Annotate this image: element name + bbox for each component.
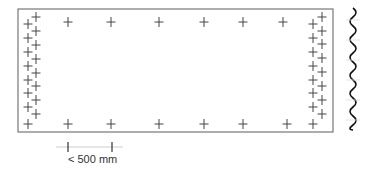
cross-mark-icon xyxy=(318,67,327,77)
cross-mark-icon xyxy=(309,88,318,98)
cross-mark-icon xyxy=(155,119,164,129)
cross-mark-icon xyxy=(24,102,33,112)
cross-mark-icon xyxy=(32,54,41,64)
cross-mark-icon xyxy=(32,81,41,91)
cross-mark-icon xyxy=(318,12,327,22)
cross-mark-icon xyxy=(32,95,41,105)
cross-mark-icon xyxy=(309,47,318,57)
cross-mark-icon xyxy=(24,75,33,85)
fastener-layout-diagram xyxy=(0,0,375,170)
cross-mark-icon xyxy=(24,19,33,29)
cross-mark-icon xyxy=(32,12,41,22)
cross-mark-icon xyxy=(318,39,327,49)
cross-mark-icon xyxy=(24,88,33,98)
cross-mark-icon xyxy=(309,102,318,112)
cross-mark-icon xyxy=(24,47,33,57)
cross-mark-icon xyxy=(318,53,327,63)
cross-mark-icon xyxy=(32,68,41,78)
fastener-crosses xyxy=(24,12,327,129)
cross-mark-icon xyxy=(283,119,292,129)
cross-mark-icon xyxy=(239,17,248,27)
cross-mark-icon xyxy=(200,17,209,27)
scale-bar-label: < 500 mm xyxy=(68,153,117,165)
cross-mark-icon xyxy=(32,26,41,36)
cross-mark-icon xyxy=(107,119,116,129)
cross-mark-icon xyxy=(309,61,318,71)
cross-mark-icon xyxy=(309,75,318,85)
cross-mark-icon xyxy=(64,119,73,129)
cross-mark-icon xyxy=(32,109,41,119)
break-line-path xyxy=(350,8,356,130)
wavy-break-line xyxy=(346,8,360,130)
panel-outline xyxy=(18,9,333,132)
scale-bar xyxy=(56,142,123,152)
cross-mark-icon xyxy=(309,19,318,29)
cross-mark-icon xyxy=(32,40,41,50)
cross-mark-icon xyxy=(200,119,209,129)
cross-mark-icon xyxy=(318,81,327,91)
cross-mark-icon xyxy=(309,33,318,43)
cross-mark-icon xyxy=(309,119,318,129)
cross-mark-icon xyxy=(318,109,327,119)
cross-mark-icon xyxy=(24,33,33,43)
cross-mark-icon xyxy=(279,17,288,27)
cross-mark-icon xyxy=(107,17,116,27)
cross-mark-icon xyxy=(64,17,73,27)
cross-mark-icon xyxy=(24,61,33,71)
cross-mark-icon xyxy=(155,17,164,27)
cross-mark-icon xyxy=(318,26,327,36)
cross-mark-icon xyxy=(24,119,33,129)
cross-mark-icon xyxy=(239,119,248,129)
cross-mark-icon xyxy=(318,95,327,105)
